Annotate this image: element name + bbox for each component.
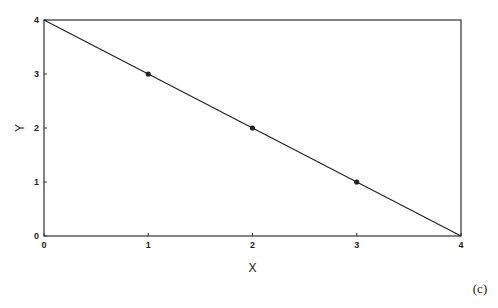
x-axis-label: X — [248, 261, 256, 275]
y-tick-label: 3 — [34, 69, 39, 79]
data-point-marker — [250, 125, 255, 130]
y-tick-label: 2 — [34, 123, 39, 133]
panel-label: (c) — [473, 281, 487, 296]
y-tick-label: 4 — [34, 15, 39, 25]
x-tick-label: 0 — [41, 240, 46, 250]
y-axis-label: Y — [13, 124, 27, 132]
line-chart: 0123401234XY(c) — [0, 0, 498, 308]
y-tick-label: 0 — [34, 231, 39, 241]
x-tick-label: 4 — [458, 240, 463, 250]
y-tick-label: 1 — [34, 177, 39, 187]
x-tick-label: 2 — [250, 240, 255, 250]
data-point-marker — [354, 179, 359, 184]
x-tick-label: 3 — [354, 240, 359, 250]
x-tick-label: 1 — [146, 240, 151, 250]
data-point-marker — [146, 71, 151, 76]
